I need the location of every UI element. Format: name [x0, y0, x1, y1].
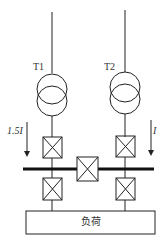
breaker-t1-lower: [43, 178, 62, 200]
transformer-t2: [110, 10, 140, 137]
breaker-t1-upper: [43, 137, 62, 158]
label-t1: T1: [33, 62, 44, 72]
current-arrow-left: [24, 122, 30, 157]
label-t2: T2: [104, 62, 115, 72]
breaker-t2-lower: [116, 178, 135, 200]
load-label: 负荷: [81, 217, 101, 227]
breaker-t2-upper: [116, 136, 135, 157]
label-current-left: 1.5I: [7, 126, 23, 136]
transformer-t1: [37, 12, 67, 137]
bus-tie-breaker: [77, 157, 98, 181]
label-current-right: I: [153, 126, 156, 136]
single-line-diagram: [0, 0, 165, 247]
